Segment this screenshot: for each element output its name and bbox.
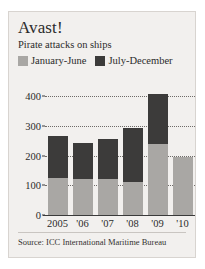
y-tick-label-100: 100 <box>25 180 41 191</box>
bar-group-06[interactable]: '06 <box>73 143 93 215</box>
x-tick-label-08: '08 <box>126 218 138 229</box>
y-tick-mark-200 <box>42 155 45 156</box>
bar-segment-july-december[interactable] <box>73 143 93 179</box>
bar-segment-january-june[interactable] <box>148 144 168 215</box>
x-tick-label-07: '07 <box>101 218 113 229</box>
source-divider <box>18 232 186 233</box>
plot-area: 01002003004002005'06'07'08'09'10 <box>45 96 195 215</box>
x-axis-line <box>43 215 195 216</box>
chart-plot: 01002003004002005'06'07'08'09'10 <box>9 12 196 258</box>
y-tick-mark-0 <box>42 215 45 216</box>
bar-segment-july-december[interactable] <box>48 136 68 179</box>
bar-segment-july-december[interactable] <box>98 139 118 179</box>
bar-group-09[interactable]: '09 <box>148 94 168 215</box>
bar-segment-july-december[interactable] <box>148 94 168 143</box>
bar-segment-january-june[interactable] <box>173 157 193 215</box>
bar-group-10[interactable]: '10 <box>173 157 193 215</box>
x-tick-label-2005: 2005 <box>47 218 68 229</box>
x-tick-label-10: '10 <box>176 218 188 229</box>
x-tick-label-06: '06 <box>76 218 88 229</box>
chart-figure: Avast! Pirate attacks on ships January-J… <box>8 11 196 258</box>
gridline-300 <box>45 126 195 127</box>
bar-segment-january-june[interactable] <box>123 182 143 215</box>
bar-segment-january-june[interactable] <box>98 179 118 215</box>
y-tick-label-200: 200 <box>25 150 41 161</box>
y-tick-mark-100 <box>42 185 45 186</box>
bar-group-07[interactable]: '07 <box>98 139 118 215</box>
bar-group-2005[interactable]: 2005 <box>48 136 68 215</box>
y-tick-label-400: 400 <box>25 91 41 102</box>
source-note: Source: ICC International Maritime Burea… <box>18 237 166 248</box>
bar-group-08[interactable]: '08 <box>123 128 143 215</box>
bar-segment-january-june[interactable] <box>48 178 68 215</box>
x-tick-label-09: '09 <box>151 218 163 229</box>
y-tick-label-300: 300 <box>25 120 41 131</box>
bar-segment-july-december[interactable] <box>123 128 143 182</box>
y-tick-mark-300 <box>42 125 45 126</box>
bar-segment-january-june[interactable] <box>73 179 93 215</box>
gridline-400 <box>45 96 195 97</box>
y-tick-mark-400 <box>42 96 45 97</box>
y-tick-label-0: 0 <box>36 210 41 221</box>
